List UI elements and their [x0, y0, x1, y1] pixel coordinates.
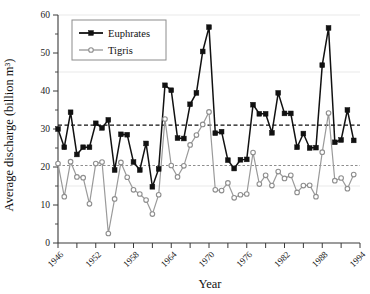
data-point-euphrates: [339, 138, 344, 143]
data-point-euphrates: [257, 111, 262, 116]
data-point-tigris: [351, 172, 356, 177]
data-point-euphrates: [225, 158, 230, 163]
legend-label-tigris: Tigris: [108, 45, 133, 56]
data-point-euphrates: [175, 136, 180, 141]
data-point-euphrates: [276, 91, 281, 96]
data-point-tigris: [320, 150, 325, 155]
data-point-euphrates: [156, 167, 161, 172]
data-point-tigris: [295, 190, 300, 195]
data-point-tigris: [326, 111, 331, 116]
data-point-euphrates: [213, 131, 218, 136]
data-point-euphrates: [207, 25, 212, 30]
data-point-tigris: [112, 197, 117, 202]
data-point-tigris: [62, 194, 67, 199]
discharge-line-chart: 0102030405060 19461952195819641970197619…: [0, 0, 370, 294]
y-axis-tick-label: 20: [41, 162, 51, 172]
data-point-euphrates: [100, 125, 105, 130]
data-point-tigris: [276, 169, 281, 174]
data-point-euphrates: [351, 138, 356, 143]
data-point-euphrates: [150, 184, 155, 189]
data-point-tigris: [163, 117, 168, 122]
data-point-euphrates: [232, 166, 237, 171]
data-point-euphrates: [194, 91, 199, 96]
data-point-tigris: [345, 186, 350, 191]
data-point-tigris: [119, 160, 124, 165]
data-point-tigris: [288, 173, 293, 178]
data-point-tigris: [244, 192, 249, 197]
data-point-tigris: [87, 202, 92, 207]
data-point-euphrates: [93, 121, 98, 126]
data-point-tigris: [213, 188, 218, 193]
data-point-euphrates: [301, 131, 306, 136]
data-point-tigris: [68, 159, 73, 164]
data-point-tigris: [251, 150, 256, 155]
data-point-euphrates: [320, 63, 325, 68]
data-point-tigris: [125, 175, 130, 180]
data-point-tigris: [263, 173, 268, 178]
data-point-euphrates: [131, 160, 136, 165]
data-point-euphrates: [295, 145, 300, 150]
data-point-euphrates: [219, 129, 224, 134]
data-point-tigris: [100, 160, 105, 165]
y-axis-tick-label: 60: [41, 10, 51, 20]
data-point-euphrates: [263, 111, 268, 116]
data-point-euphrates: [270, 130, 275, 135]
data-point-tigris: [106, 231, 111, 236]
data-point-euphrates: [81, 145, 86, 150]
y-axis-tick-label: 0: [45, 238, 50, 248]
data-point-tigris: [257, 182, 262, 187]
data-point-euphrates: [200, 49, 205, 54]
data-point-tigris: [175, 175, 180, 180]
data-point-euphrates: [144, 141, 149, 146]
data-point-tigris: [219, 188, 224, 193]
data-point-tigris: [226, 181, 231, 186]
chart-legend: EuphratesTigris: [72, 20, 166, 60]
data-point-euphrates: [307, 146, 312, 151]
data-point-tigris: [200, 122, 205, 127]
y-axis-tick-label: 10: [41, 200, 51, 210]
data-point-euphrates: [68, 110, 73, 115]
data-point-tigris: [144, 198, 149, 203]
data-point-euphrates: [345, 108, 350, 113]
data-point-tigris: [194, 133, 199, 138]
data-point-tigris: [188, 143, 193, 148]
x-axis-title: Year: [198, 277, 222, 291]
y-axis-tick-label: 50: [41, 48, 51, 58]
y-axis-tick-label: 40: [41, 86, 51, 96]
data-point-euphrates: [326, 26, 331, 31]
data-point-tigris: [131, 188, 136, 193]
data-point-euphrates: [169, 88, 174, 93]
data-point-euphrates: [62, 145, 67, 150]
data-point-tigris: [307, 183, 312, 188]
data-point-euphrates: [163, 83, 168, 88]
data-point-tigris: [282, 176, 287, 181]
data-point-euphrates: [74, 152, 79, 157]
data-point-euphrates: [119, 132, 124, 137]
data-point-tigris: [232, 195, 237, 200]
data-point-tigris: [301, 183, 306, 188]
data-point-euphrates: [238, 157, 243, 162]
data-point-euphrates: [181, 136, 186, 141]
data-point-euphrates: [288, 111, 293, 116]
data-point-tigris: [169, 163, 174, 168]
data-point-euphrates: [137, 168, 142, 173]
data-point-tigris: [238, 192, 243, 197]
data-point-euphrates: [251, 102, 256, 107]
data-point-tigris: [182, 164, 187, 169]
data-point-tigris: [137, 192, 142, 197]
y-axis-title: Average discharge (billion m³): [2, 59, 16, 212]
data-point-tigris: [93, 161, 98, 166]
data-point-tigris: [207, 110, 212, 115]
data-point-euphrates: [87, 145, 92, 150]
data-point-euphrates: [244, 157, 249, 162]
data-point-tigris: [150, 212, 155, 217]
data-point-euphrates: [314, 145, 319, 150]
data-point-euphrates: [56, 127, 61, 132]
y-axis-tick-label: 30: [41, 124, 51, 134]
data-point-euphrates: [106, 117, 111, 122]
data-point-euphrates: [112, 168, 117, 173]
legend-marker-euphrates: [89, 31, 94, 36]
legend-marker-tigris: [89, 48, 94, 53]
data-point-tigris: [270, 183, 275, 188]
data-point-tigris: [56, 161, 61, 166]
